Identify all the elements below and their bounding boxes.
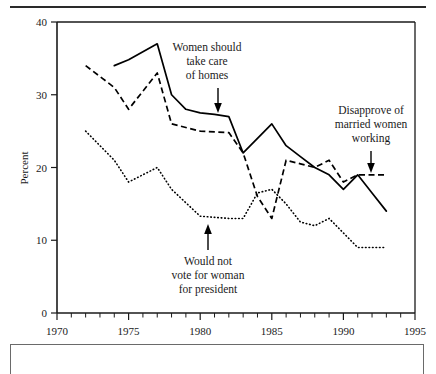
annotation-disapprove-line-3: working <box>352 132 391 145</box>
x-axis-ticks <box>57 313 415 320</box>
annotation-disapprove-arrow-icon <box>367 163 375 173</box>
y-tick-label-0: 0 <box>42 307 48 319</box>
y-axis-ticks <box>51 22 57 313</box>
x-tick-label-1995: 1995 <box>404 325 427 337</box>
annotation-women-homes-arrow-icon <box>214 103 222 113</box>
annotation-women-homes-line-2: take care <box>186 55 227 67</box>
annotation-women-homes-line-3: of homes <box>186 69 229 81</box>
x-tick-label-1975: 1975 <box>118 325 141 337</box>
annotation-would-not-vote-line-3: for president <box>179 283 238 296</box>
x-tick-label-1980: 1980 <box>189 325 212 337</box>
annotation-disapprove-line-1: Disapprove of <box>338 104 404 117</box>
y-axis-tick-labels: 010203040 <box>36 16 48 319</box>
x-tick-label-1985: 1985 <box>261 325 284 337</box>
y-axis-title: Percent <box>18 152 30 185</box>
caption-box <box>10 344 424 374</box>
series-line-disapprove-of-married-women-working <box>86 66 387 219</box>
annotation-would-not-vote-line-1: Would not <box>184 255 233 267</box>
annotation-disapprove-working: Disapprove of married women working <box>335 104 408 173</box>
annotation-women-homes-line-1: Women should <box>172 41 241 53</box>
y-tick-label-30: 30 <box>36 89 48 101</box>
annotation-would-not-vote-arrow-icon <box>204 224 212 234</box>
series-line-would-not-vote-for-woman-for-president <box>86 131 387 247</box>
y-tick-label-40: 40 <box>36 16 48 28</box>
annotation-women-homes: Women should take care of homes <box>172 41 241 113</box>
x-tick-label-1990: 1990 <box>332 325 355 337</box>
x-tick-label-1970: 1970 <box>46 325 69 337</box>
annotation-would-not-vote-line-2: vote for woman <box>172 269 245 281</box>
x-axis-tick-labels: 197019751980198519901995 <box>46 325 427 337</box>
y-tick-label-20: 20 <box>36 162 48 174</box>
annotation-would-not-vote: Would not vote for woman for president <box>172 224 245 296</box>
annotation-disapprove-line-2: married women <box>335 118 408 130</box>
y-tick-label-10: 10 <box>36 234 48 246</box>
